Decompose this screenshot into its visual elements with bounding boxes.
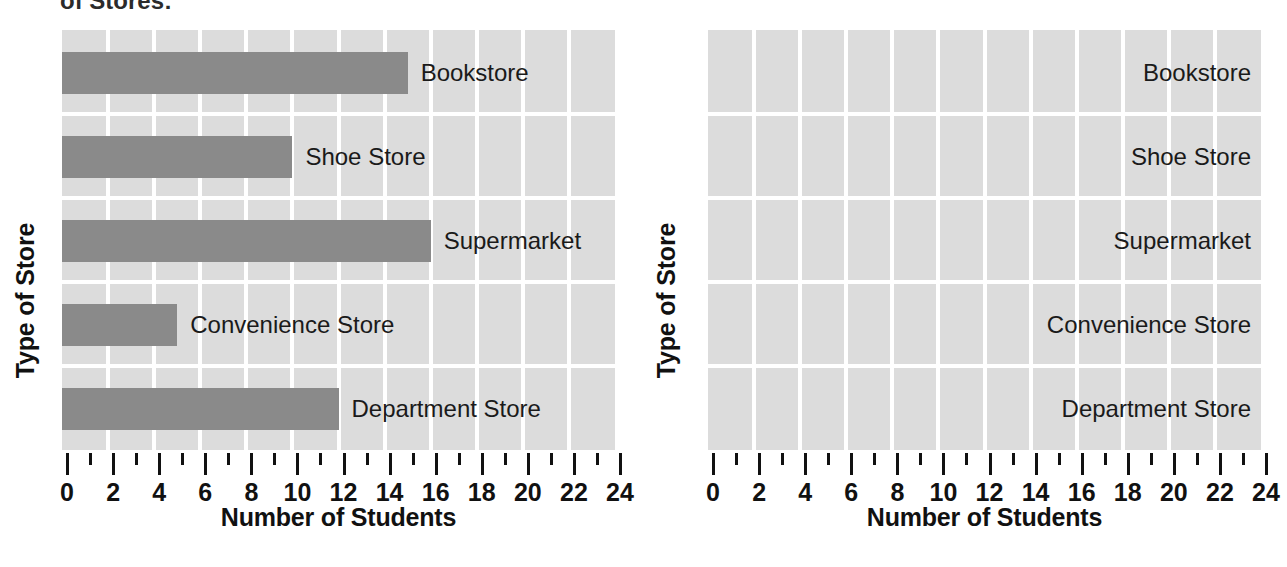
chart-row: Department Store <box>62 366 615 450</box>
category-label: Bookstore <box>1143 53 1251 93</box>
axis-tick-major <box>158 453 161 475</box>
axis-tick-minor <box>227 453 230 465</box>
chart-row: Supermarket <box>708 198 1261 282</box>
horizontal-gridline <box>62 280 615 284</box>
chart-row: Bookstore <box>708 30 1261 114</box>
axis-tick-major <box>527 453 530 475</box>
axis-tick-minor <box>827 453 830 465</box>
axis-tick-minor <box>319 453 322 465</box>
plot-area-right: BookstoreShoe StoreSupermarketConvenienc… <box>708 30 1261 450</box>
axis-tick-minor <box>458 453 461 465</box>
y-axis-title-left-text: Type of Store <box>12 222 41 377</box>
axis-tick-minor <box>412 453 415 465</box>
x-axis-title-left: Number of Students <box>62 500 615 534</box>
axis-tick-major <box>989 453 992 475</box>
x-axis-title-right: Number of Students <box>708 500 1261 534</box>
y-axis-title-left: Type of Store <box>4 150 48 450</box>
horizontal-gridline <box>62 364 615 368</box>
horizontal-gridline <box>708 112 1261 116</box>
axis-tick-minor <box>504 453 507 465</box>
horizontal-gridline <box>708 196 1261 200</box>
horizontal-gridline <box>62 196 615 200</box>
axis-tick-major <box>1127 453 1130 475</box>
axis-tick-minor <box>550 453 553 465</box>
category-label: Supermarket <box>1114 221 1251 261</box>
axis-tick-minor <box>965 453 968 465</box>
category-label: Shoe Store <box>1131 137 1251 177</box>
axis-tick-minor <box>366 453 369 465</box>
axis-tick-major <box>573 453 576 475</box>
axis-tick-major <box>619 453 622 475</box>
axis-tick-major <box>712 453 715 475</box>
axis-tick-minor <box>873 453 876 465</box>
chart-row: Department Store <box>708 366 1261 450</box>
axis-tick-minor <box>596 453 599 465</box>
axis-tick-major <box>1219 453 1222 475</box>
axis-tick-major <box>850 453 853 475</box>
axis-tick-major <box>758 453 761 475</box>
chart-row: Convenience Store <box>62 282 615 366</box>
axis-tick-major <box>1265 453 1268 475</box>
category-label: Bookstore <box>408 53 529 93</box>
horizontal-gridline <box>708 280 1261 284</box>
axis-tick-major <box>112 453 115 475</box>
axis-tick-major <box>942 453 945 475</box>
axis-tick-major <box>435 453 438 475</box>
axis-tick-minor <box>1012 453 1015 465</box>
category-label: Department Store <box>1062 389 1251 429</box>
axis-tick-minor <box>273 453 276 465</box>
axis-tick-major <box>1035 453 1038 475</box>
axis-tick-major <box>66 453 69 475</box>
x-axis-left: 024681012141618202224 <box>62 450 622 480</box>
axis-tick-minor <box>181 453 184 465</box>
axis-tick-minor <box>1058 453 1061 465</box>
bar <box>62 304 177 346</box>
category-label: Shoe Store <box>292 137 425 177</box>
bar <box>62 220 431 262</box>
axis-tick-major <box>1081 453 1084 475</box>
axis-tick-minor <box>135 453 138 465</box>
axis-tick-minor <box>1196 453 1199 465</box>
axis-tick-major <box>250 453 253 475</box>
chart-panel-right: Type of Store BookstoreShoe StoreSuperma… <box>641 0 1287 567</box>
axis-tick-major <box>296 453 299 475</box>
axis-tick-minor <box>1242 453 1245 465</box>
chart-row: Supermarket <box>62 198 615 282</box>
chart-panel-left: Type of Store BookstoreShoe StoreSuperma… <box>0 0 655 567</box>
axis-tick-minor <box>1150 453 1153 465</box>
chart-row: Bookstore <box>62 30 615 114</box>
horizontal-gridline <box>62 112 615 116</box>
y-axis-title-right-text: Type of Store <box>653 222 682 377</box>
axis-tick-major <box>804 453 807 475</box>
bar <box>62 136 292 178</box>
axis-tick-major <box>1173 453 1176 475</box>
chart-row: Convenience Store <box>708 282 1261 366</box>
axis-tick-minor <box>919 453 922 465</box>
bar <box>62 52 408 94</box>
axis-tick-major <box>204 453 207 475</box>
axis-tick-major <box>343 453 346 475</box>
chart-row: Shoe Store <box>62 114 615 198</box>
axis-tick-major <box>896 453 899 475</box>
category-label: Department Store <box>339 389 541 429</box>
chart-row: Shoe Store <box>708 114 1261 198</box>
axis-tick-minor <box>89 453 92 465</box>
x-axis-right: 024681012141618202224 <box>708 450 1268 480</box>
axis-tick-major <box>481 453 484 475</box>
category-label: Convenience Store <box>177 305 394 345</box>
category-label: Convenience Store <box>1047 305 1251 345</box>
axis-tick-major <box>389 453 392 475</box>
plot-area-left: BookstoreShoe StoreSupermarketConvenienc… <box>62 30 615 450</box>
category-label: Supermarket <box>431 221 581 261</box>
axis-tick-minor <box>781 453 784 465</box>
y-axis-title-right: Type of Store <box>645 150 689 450</box>
axis-tick-minor <box>735 453 738 465</box>
axis-tick-minor <box>1104 453 1107 465</box>
bar <box>62 388 339 430</box>
horizontal-gridline <box>708 364 1261 368</box>
